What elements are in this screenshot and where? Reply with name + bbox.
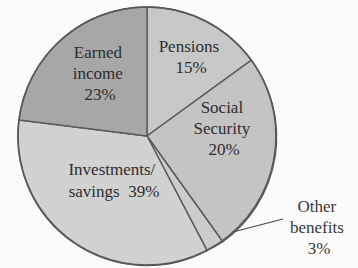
slice-label-line: 20% (208, 140, 239, 159)
pie-chart-figure: Earned income 23% Pensions 15% Social Se… (0, 0, 358, 268)
slice-label-line: 23% (84, 85, 115, 104)
slice-label-line: Other (298, 197, 337, 216)
slice-label-other-benefits: Other benefits 3% (290, 197, 348, 258)
pie-chart-canvas: Earned income 23% Pensions 15% Social Se… (0, 0, 358, 268)
slice-label-line: Investments/ (68, 160, 155, 179)
slice-label-line: savings 39% (69, 182, 160, 201)
slice-label-line: income (73, 64, 123, 83)
slice-label-line: 3% (308, 239, 331, 258)
slice-label-line: Pensions (159, 37, 219, 56)
slice-label-line: Security (194, 119, 251, 138)
slice-label-line: 15% (175, 58, 206, 77)
slice-label-line: Earned (74, 43, 123, 62)
slice-label-line: benefits (290, 218, 344, 237)
slice-label-line: Social (201, 98, 244, 117)
